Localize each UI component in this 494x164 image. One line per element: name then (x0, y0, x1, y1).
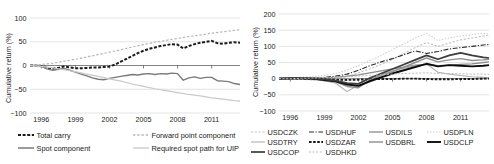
y-tick-label: −50 (14, 85, 26, 94)
chart-panel-left: 100500−50−100199619992002200520082011 Cu… (0, 0, 247, 164)
figure-container: 100500−50−100199619992002200520082011 Cu… (0, 0, 494, 164)
y-tick-label: −50 (263, 90, 275, 99)
x-tick-label: 2008 (419, 113, 435, 122)
right-y-axis-title: Cumulative return (%) (251, 27, 260, 97)
x-tick-label: 2011 (453, 113, 468, 122)
legend-label: USDBRL (386, 138, 416, 147)
y-tick-label: 200 (264, 10, 276, 19)
x-tick-label: 2002 (101, 115, 117, 124)
y-tick-label: 100 (15, 14, 27, 23)
x-tick-label: 2002 (350, 113, 366, 122)
x-tick-label: 2011 (204, 115, 219, 124)
legend-label: USDCOP (268, 148, 300, 157)
legend-label: USDZAR (326, 138, 356, 147)
legend-label: USDHUF (326, 128, 357, 137)
right-chart-svg: 200150100500−50−100199619992002200520082… (247, 0, 494, 164)
x-tick-label: 1996 (282, 113, 298, 122)
left-chart-svg: 100500−50−100199619992002200520082011 Cu… (0, 0, 247, 164)
legend-label: Spot component (37, 144, 91, 153)
legend-item-usdbrl[interactable]: USDBRL (369, 138, 415, 147)
x-tick-label: 2008 (170, 115, 186, 124)
y-tick-label: 100 (264, 42, 276, 51)
legend-label: USDCLP (444, 138, 474, 147)
x-tick-label: 1996 (33, 115, 49, 124)
legend-label: Total carry (37, 131, 71, 140)
y-tick-label: 50 (19, 37, 27, 46)
x-tick-label: 2005 (385, 113, 401, 122)
left-axis-labels: 100500−50−100199619992002200520082011 (10, 14, 219, 124)
legend-item-total-carry[interactable]: Total carry (18, 131, 71, 140)
legend-label: Required spot path for UIP (152, 144, 240, 153)
series-line-required-spot-path-for-uip (30, 66, 240, 102)
legend-item-usdpln[interactable]: USDPLN (427, 128, 473, 137)
chart-panel-right: 200150100500−50−100199619992002200520082… (247, 0, 494, 164)
x-tick-label: 1999 (67, 115, 83, 124)
legend-item-required-spot-path-for-uip[interactable]: Required spot path for UIP (133, 144, 239, 153)
legend-label: USDHKD (326, 148, 357, 157)
y-tick-label: −100 (10, 109, 26, 118)
left-gridlines (30, 18, 240, 113)
legend-item-usdcop[interactable]: USDCOP (251, 148, 299, 157)
legend-item-usdhkd[interactable]: USDHKD (309, 148, 357, 157)
left-legend: Total carryForward point componentSpot c… (18, 131, 239, 153)
x-tick-label: 1999 (316, 113, 332, 122)
legend-label: Forward point component (152, 131, 236, 140)
series-line-forward-point-component (30, 30, 240, 66)
legend-item-usdhuf[interactable]: USDHUF (309, 128, 357, 137)
y-tick-label: 50 (268, 58, 276, 67)
y-tick-label: −100 (259, 107, 275, 116)
right-gridlines (279, 14, 489, 111)
series-line-spot-component (30, 66, 240, 85)
y-tick-label: 0 (272, 74, 276, 83)
legend-item-usdczk[interactable]: USDCZK (251, 128, 298, 137)
legend-label: USDILS (386, 128, 413, 137)
legend-item-usdtry[interactable]: USDTRY (251, 138, 298, 147)
legend-item-usdclp[interactable]: USDCLP (427, 138, 474, 147)
x-tick-label: 2005 (136, 115, 152, 124)
right-legend: USDCZKUSDHUFUSDILSUSDPLNUSDTRYUSDZARUSDB… (251, 128, 474, 157)
legend-item-forward-point-component[interactable]: Forward point component (133, 131, 235, 140)
legend-item-spot-component[interactable]: Spot component (18, 144, 90, 153)
left-y-axis-title: Cumulative return (%) (4, 33, 13, 103)
legend-label: USDTRY (268, 138, 298, 147)
legend-item-usdzar[interactable]: USDZAR (309, 138, 356, 147)
legend-item-usdils[interactable]: USDILS (369, 128, 412, 137)
y-tick-label: 0 (23, 61, 27, 70)
legend-label: USDCZK (268, 128, 298, 137)
y-tick-label: 150 (264, 26, 276, 35)
legend-label: USDPLN (444, 128, 474, 137)
series-line-total-carry (30, 41, 240, 69)
